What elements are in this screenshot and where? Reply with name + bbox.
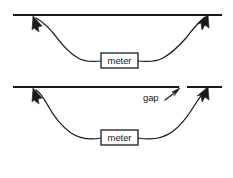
top-meter-label: meter <box>108 55 132 66</box>
bottom-panel: meter gap <box>13 87 222 145</box>
top-meter-box: meter <box>101 53 138 68</box>
top-right-arrowhead-icon <box>197 15 209 30</box>
bottom-meter-label: meter <box>108 132 132 143</box>
bottom-left-lead-wire <box>36 90 101 139</box>
top-panel: meter <box>13 15 222 68</box>
gap-callout: gap <box>143 88 180 103</box>
gap-callout-label: gap <box>143 92 159 103</box>
top-right-lead-wire <box>138 17 205 62</box>
diagram-figure: meter meter gap <box>0 0 233 178</box>
gap-callout-arrowhead-icon <box>172 88 180 96</box>
bottom-meter-box: meter <box>101 130 138 145</box>
top-left-lead-wire <box>36 18 101 62</box>
